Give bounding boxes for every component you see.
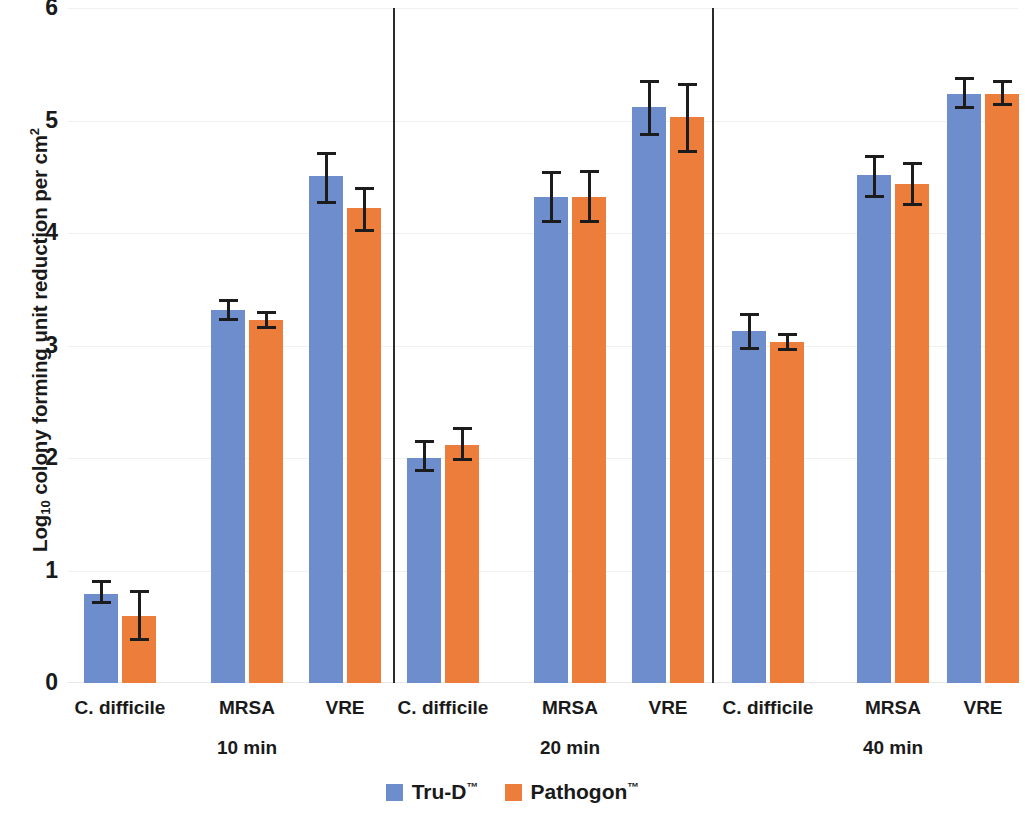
bar-chart: Log10 colony forming unit reduction per … [0, 0, 1025, 815]
x-axis-label-1: MRSA [219, 697, 275, 719]
error-cap-bottom [130, 638, 149, 641]
y-axis-tick-1: 1 [22, 559, 58, 582]
error-bar-tru-d-1 [219, 299, 238, 320]
error-bar-tru-d-5 [640, 80, 659, 136]
bar-pathogon-8 [985, 94, 1019, 684]
x-axis-group-label-40-min: 40 min [863, 737, 923, 759]
error-stem [963, 77, 966, 110]
x-axis-label-6: C. difficile [723, 697, 814, 719]
error-bar-tru-d-8 [955, 77, 974, 110]
error-cap-bottom [257, 326, 276, 329]
error-cap-bottom [740, 347, 759, 350]
trademark-icon: ™ [467, 780, 479, 794]
error-cap-bottom [317, 201, 336, 204]
error-cap-bottom [865, 195, 884, 198]
error-stem [686, 83, 689, 153]
y-axis-tick-5: 5 [22, 109, 58, 132]
legend-item-pathogon[interactable]: Pathogon™ [505, 780, 640, 804]
error-bar-pathogon-8 [993, 80, 1012, 106]
legend-label-pathogon: Pathogon™ [531, 780, 640, 804]
y-axis-tick-3: 3 [22, 334, 58, 357]
gridline [68, 8, 1018, 9]
error-bar-tru-d-0 [92, 580, 111, 605]
error-stem [423, 440, 426, 472]
error-stem [138, 590, 141, 642]
x-axis-group-label-10-min: 10 min [217, 737, 277, 759]
gridline [68, 121, 1018, 122]
x-axis-label-5: VRE [648, 697, 687, 719]
error-bar-pathogon-2 [355, 187, 374, 232]
error-stem [648, 80, 651, 136]
bar-tru-d-6 [732, 331, 766, 683]
legend-item-tru-d[interactable]: Tru-D™ [386, 780, 479, 804]
bar-tru-d-5 [632, 107, 666, 683]
x-axis-label-0: C. difficile [75, 697, 166, 719]
error-cap-bottom [415, 469, 434, 472]
bar-tru-d-1 [211, 310, 245, 684]
bar-pathogon-6 [770, 342, 804, 683]
trademark-icon: ™ [627, 780, 639, 794]
error-cap-bottom [993, 103, 1012, 106]
x-axis-label-7: MRSA [865, 697, 921, 719]
error-cap-bottom [955, 106, 974, 109]
bar-tru-d-2 [309, 176, 343, 683]
error-bar-pathogon-6 [778, 333, 797, 351]
error-cap-bottom [640, 133, 659, 136]
legend: Tru-D™Pathogon™ [0, 780, 1025, 804]
legend-swatch-pathogon [505, 784, 522, 801]
plot-area [68, 8, 1018, 683]
y-axis-tick-4: 4 [22, 221, 58, 244]
bar-pathogon-1 [249, 320, 283, 683]
bar-pathogon-2 [347, 208, 381, 683]
bar-pathogon-5 [670, 117, 704, 683]
error-bar-tru-d-2 [317, 152, 336, 204]
bar-tru-d-3 [407, 458, 441, 683]
bar-pathogon-7 [895, 184, 929, 684]
x-axis-group-label-20-min: 20 min [540, 737, 600, 759]
y-axis-tick-2: 2 [22, 446, 58, 469]
error-bar-tru-d-7 [865, 155, 884, 198]
bar-tru-d-4 [534, 197, 568, 683]
error-cap-bottom [678, 150, 697, 153]
error-bar-pathogon-3 [453, 427, 472, 462]
error-stem [325, 152, 328, 204]
error-bar-pathogon-1 [257, 311, 276, 329]
error-stem [748, 313, 751, 350]
error-cap-bottom [903, 203, 922, 206]
y-axis-tick-6: 6 [22, 0, 58, 19]
legend-swatch-tru-d [386, 784, 403, 801]
error-stem [550, 171, 553, 223]
group-separator-2 [712, 8, 714, 683]
error-stem [461, 427, 464, 462]
y-axis-tick-0: 0 [22, 671, 58, 694]
error-bar-pathogon-4 [580, 170, 599, 223]
error-bar-pathogon-5 [678, 83, 697, 153]
error-bar-tru-d-6 [740, 313, 759, 350]
error-cap-bottom [778, 348, 797, 351]
legend-label-tru-d: Tru-D™ [412, 780, 479, 804]
error-stem [363, 187, 366, 232]
error-stem [588, 170, 591, 223]
error-cap-bottom [453, 458, 472, 461]
error-bar-pathogon-0 [130, 590, 149, 642]
y-axis-title-subscript: 10 [38, 500, 53, 514]
group-separator-1 [393, 8, 395, 683]
error-cap-bottom [580, 220, 599, 223]
bar-pathogon-3 [445, 445, 479, 684]
error-stem [911, 162, 914, 206]
error-bar-tru-d-3 [415, 440, 434, 472]
x-axis-label-8: VRE [963, 697, 1002, 719]
x-axis-label-2: VRE [325, 697, 364, 719]
legend-label-text: Tru-D [412, 780, 467, 803]
y-axis-title-prefix: Log [28, 515, 51, 552]
error-cap-bottom [542, 220, 561, 223]
bar-tru-d-7 [857, 175, 891, 684]
x-axis-label-4: MRSA [542, 697, 598, 719]
bar-pathogon-4 [572, 197, 606, 683]
error-cap-bottom [355, 229, 374, 232]
bar-tru-d-8 [947, 94, 981, 684]
error-stem [873, 155, 876, 198]
error-bar-tru-d-4 [542, 171, 561, 223]
error-cap-bottom [92, 601, 111, 604]
error-bar-pathogon-7 [903, 162, 922, 206]
